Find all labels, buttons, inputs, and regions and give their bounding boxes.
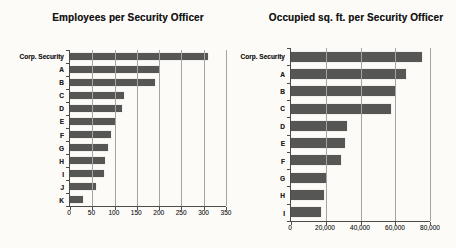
- bar-corp-security: [291, 52, 422, 62]
- y-axis-tick: [287, 186, 290, 187]
- category-label: A: [20, 63, 67, 76]
- bar-row: [70, 193, 226, 206]
- x-axis-tick-label: 50: [88, 209, 95, 216]
- value-axis-labels: 020,00040,00060,00080,000: [290, 224, 430, 234]
- y-axis-tick: [287, 135, 290, 136]
- y-axis-tick: [287, 117, 290, 118]
- category-label: A: [236, 65, 288, 82]
- category-label: B: [20, 76, 67, 89]
- category-label: K: [20, 194, 67, 207]
- category-label: G: [20, 142, 67, 155]
- gridline: [92, 50, 93, 206]
- category-axis-labels: Corp. SecurityABCDEFGHI: [236, 48, 288, 222]
- x-axis-tick-label: 80,000: [420, 224, 440, 231]
- bar-row: [70, 102, 226, 115]
- bar-row: [70, 154, 226, 167]
- category-label: H: [20, 155, 67, 168]
- y-axis-tick: [287, 48, 290, 49]
- bar-i: [70, 170, 104, 177]
- bar-row: [70, 89, 226, 102]
- y-axis-tick: [287, 83, 290, 84]
- x-axis-tick-label: 60,000: [385, 224, 405, 231]
- x-axis-tick-label: 0: [288, 224, 292, 231]
- bar-d: [291, 121, 347, 131]
- occupied-sqft-per-officer-chart: Occupied sq. ft. per Security Officer Co…: [236, 8, 448, 246]
- gridline: [159, 50, 160, 206]
- y-axis-tick: [66, 76, 69, 77]
- gridline: [430, 48, 431, 221]
- y-axis-tick: [66, 193, 69, 194]
- bar-e: [291, 138, 345, 148]
- y-axis-tick: [66, 154, 69, 155]
- y-axis-tick: [287, 204, 290, 205]
- gridline: [361, 48, 362, 221]
- bar-row: [70, 180, 226, 193]
- gridline: [326, 48, 327, 221]
- y-axis-tick: [66, 50, 69, 51]
- gridline: [226, 50, 227, 206]
- category-label: J: [20, 181, 67, 194]
- y-axis-tick: [66, 167, 69, 168]
- bar-c: [291, 104, 391, 114]
- category-label: I: [236, 205, 288, 222]
- bar-row: [70, 50, 226, 63]
- x-axis-tick-label: 0: [67, 209, 71, 216]
- bar-h: [70, 157, 105, 164]
- gridline: [204, 50, 205, 206]
- chart-title: Occupied sq. ft. per Security Officer: [250, 12, 456, 23]
- plot-area: [290, 48, 430, 222]
- gridline: [137, 50, 138, 206]
- bar-g: [70, 144, 108, 151]
- plot-area: [69, 50, 226, 207]
- category-label: D: [236, 118, 288, 135]
- y-axis-tick: [66, 128, 69, 129]
- y-axis-tick: [66, 102, 69, 103]
- bar-row: [70, 76, 226, 89]
- category-label: E: [20, 115, 67, 128]
- y-axis-tick: [287, 221, 290, 222]
- y-axis-tick: [66, 180, 69, 181]
- value-axis-labels: 050100150200250300350: [69, 209, 226, 219]
- y-axis-tick: [66, 89, 69, 90]
- y-axis-tick: [287, 152, 290, 153]
- bar-b: [291, 86, 395, 96]
- category-label: Corp. Security: [236, 48, 288, 65]
- employees-per-officer-chart: Employees per Security Officer Corp. Sec…: [20, 8, 228, 242]
- bar-f: [291, 155, 341, 165]
- category-axis-labels: Corp. SecurityABCDEFGHIJK: [20, 50, 67, 207]
- category-label: G: [236, 170, 288, 187]
- y-axis-tick: [287, 100, 290, 101]
- category-label: E: [236, 135, 288, 152]
- bar-c: [70, 92, 124, 99]
- bar-h: [291, 190, 324, 200]
- bar-a: [291, 69, 406, 79]
- bars: [70, 50, 226, 206]
- category-label: C: [236, 100, 288, 117]
- y-axis-tick: [66, 206, 69, 207]
- y-axis-tick: [66, 63, 69, 64]
- x-axis-tick-label: 250: [176, 209, 187, 216]
- category-label: I: [20, 168, 67, 181]
- x-axis-tick-label: 20,000: [315, 224, 335, 231]
- x-axis-tick-label: 40,000: [350, 224, 370, 231]
- gridline: [115, 50, 116, 206]
- y-axis-tick: [287, 65, 290, 66]
- security-officer-ratio-figure: Employees per Security Officer Corp. Sec…: [0, 0, 456, 248]
- bar-row: [70, 167, 226, 180]
- bar-f: [70, 131, 111, 138]
- category-label: Corp. Security: [20, 50, 67, 63]
- x-axis-tick-label: 300: [198, 209, 209, 216]
- x-axis-tick-label: 150: [131, 209, 142, 216]
- gridline: [181, 50, 182, 206]
- category-label: B: [236, 83, 288, 100]
- category-label: C: [20, 89, 67, 102]
- x-axis-tick-label: 200: [153, 209, 164, 216]
- bar-row: [70, 115, 226, 128]
- gridline: [395, 48, 396, 221]
- bar-b: [70, 79, 155, 86]
- y-axis-tick: [287, 169, 290, 170]
- bar-row: [70, 141, 226, 154]
- chart-title: Employees per Security Officer: [24, 12, 232, 23]
- y-axis-tick: [66, 115, 69, 116]
- y-axis-tick: [66, 141, 69, 142]
